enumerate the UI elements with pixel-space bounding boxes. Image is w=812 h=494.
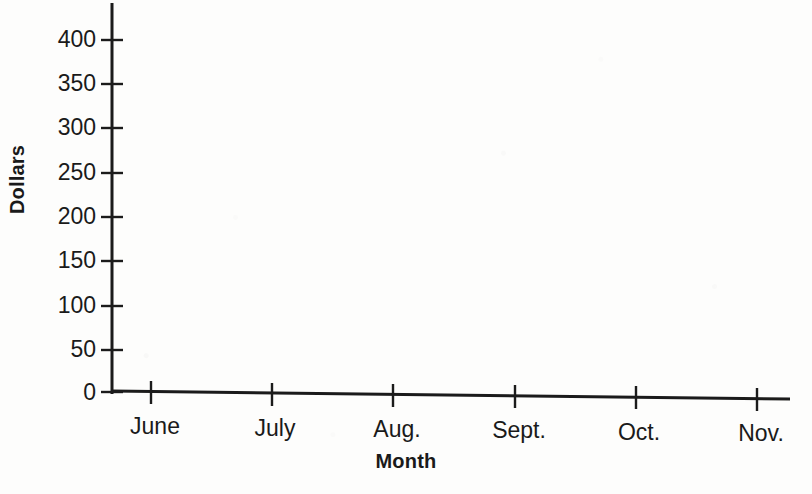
x-tick-label-june: June	[130, 415, 180, 438]
x-tick-label-aug: Aug.	[373, 418, 420, 441]
x-tick-label-oct: Oct.	[618, 421, 660, 444]
plot-area	[113, 4, 790, 392]
y-axis-title: Dollars	[6, 130, 29, 230]
x-tick-label-sept: Sept.	[492, 419, 546, 442]
chart-figure: 400 350 300 250 200 150 100 50 0 June Ju…	[0, 0, 812, 494]
x-axis-title: Month	[0, 450, 812, 473]
x-tick-label-nov: Nov.	[738, 422, 784, 445]
x-tick-label-july: July	[255, 417, 296, 440]
